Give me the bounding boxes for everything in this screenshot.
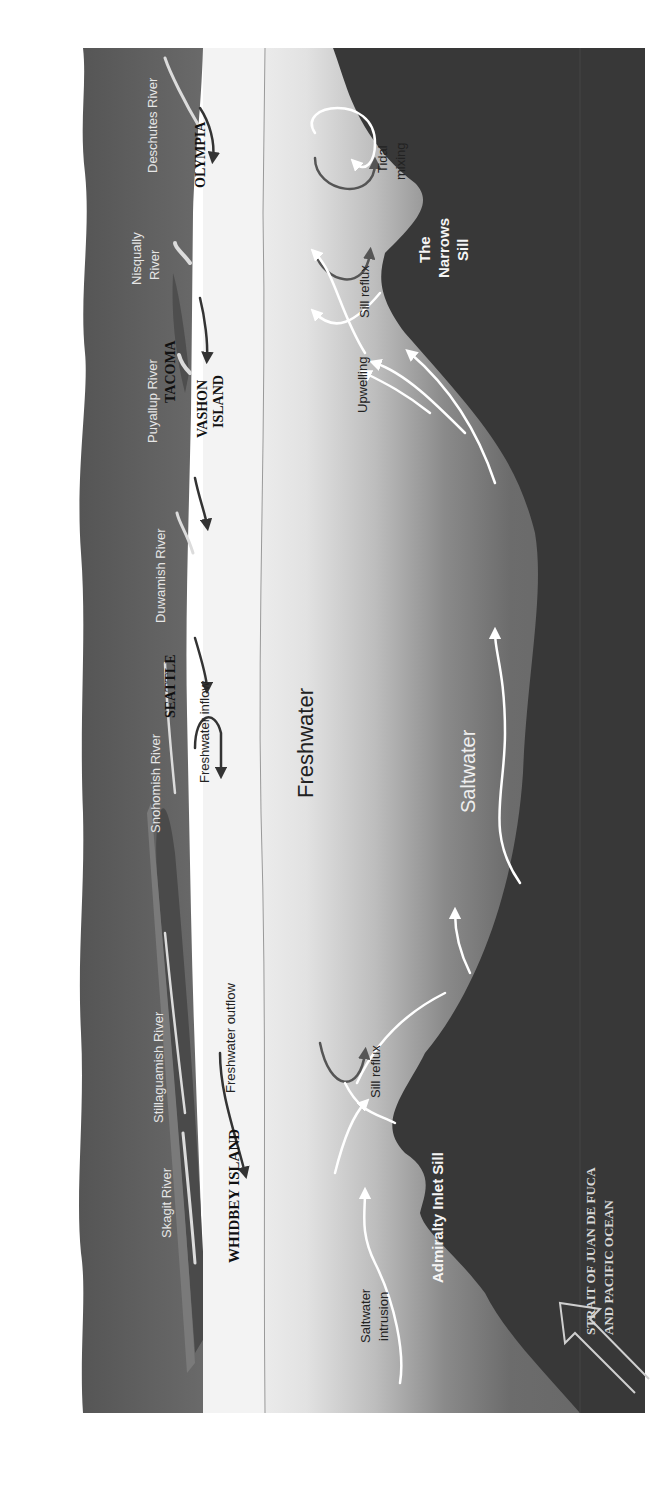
- label-saltwater-intrusion-2: intrusion: [376, 1292, 391, 1341]
- label-nisqually-river-1: Nisqually: [129, 232, 144, 285]
- label-sill-reflux-south: Sill reflux: [368, 1045, 383, 1098]
- label-saltwater-layer: Saltwater: [457, 729, 479, 813]
- label-admiralty-inlet-sill: Admiralty Inlet Sill: [429, 1152, 446, 1283]
- diagram-frame: Deschutes River Nisqually River Puyallup…: [79, 48, 649, 1413]
- label-freshwater-inflow: Freshwater inflow: [197, 681, 212, 783]
- label-whidbey-island: WHIDBEY ISLAND: [226, 1129, 242, 1263]
- label-snohomish-river: Snohomish River: [148, 733, 163, 833]
- label-seattle: SEATTLE: [163, 654, 178, 718]
- label-duwamish-river: Duwamish River: [153, 528, 168, 623]
- label-ocean-line-2: AND PACIFIC OCEAN: [601, 1200, 616, 1335]
- label-ocean-line-1: STRAIT OF JUAN DE FUCA: [583, 1167, 598, 1335]
- label-upwelling: Upwelling: [355, 357, 370, 413]
- label-tidal-mixing-1: Tidal: [375, 145, 390, 173]
- label-saltwater-intrusion-1: Saltwater: [358, 1288, 373, 1343]
- label-nisqually-river-2: River: [147, 249, 162, 280]
- label-olympia: OLYMPIA: [193, 121, 208, 188]
- label-narrows-sill-2: Narrows: [435, 218, 452, 278]
- label-narrows-sill-3: Sill: [454, 238, 471, 261]
- label-vashon-1: VASHON: [195, 380, 210, 438]
- label-tacoma: TACOMA: [163, 339, 178, 403]
- label-skagit-river: Skagit River: [159, 1167, 174, 1238]
- label-sill-reflux-north: Sill reflux: [357, 265, 372, 318]
- label-puyallup-river: Puyallup River: [145, 359, 160, 443]
- puget-sound-circulation-diagram: Deschutes River Nisqually River Puyallup…: [0, 0, 661, 1493]
- label-tidal-mixing-2: mixing: [393, 142, 408, 180]
- label-freshwater-outflow: Freshwater outflow: [223, 983, 238, 1093]
- label-stillaguamish-river: Stillaguamish River: [151, 1011, 166, 1123]
- label-freshwater-layer: Freshwater: [293, 688, 318, 798]
- label-vashon-2: ISLAND: [211, 375, 226, 428]
- label-deschutes-river: Deschutes River: [145, 77, 160, 173]
- label-narrows-sill-1: The: [416, 236, 433, 263]
